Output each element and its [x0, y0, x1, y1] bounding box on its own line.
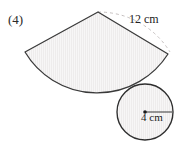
geometry-figure-container: (4) 12 cm 4 cm: [0, 0, 184, 152]
question-number-label: (4): [8, 13, 23, 26]
circle-radius-dimension-label: 4 cm: [141, 112, 163, 123]
sector-radius-dimension-label: 12 cm: [129, 13, 159, 25]
